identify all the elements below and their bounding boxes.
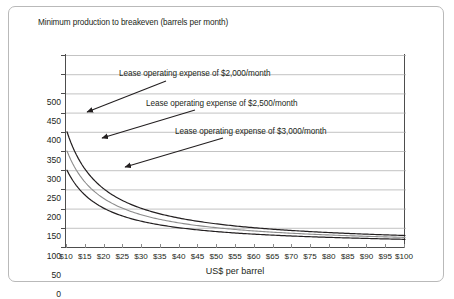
x-tick-mark [404, 244, 405, 248]
y-tick-mark [61, 209, 65, 210]
annotation-loe-2500: Lease operating expense of $2,500/month [146, 99, 297, 108]
x-tick-mark [254, 244, 255, 248]
y-tick-label: 300 [29, 174, 61, 184]
y-tick-label: 150 [29, 231, 61, 241]
y-tick-mark [61, 74, 65, 75]
x-tick-mark [66, 244, 67, 248]
chart-frame: Minimum production to breakeven (barrels… [8, 6, 444, 282]
y-tick-mark [61, 55, 65, 56]
plot-canvas [65, 54, 405, 248]
x-tick-mark [385, 244, 386, 248]
x-tick-mark [273, 244, 274, 248]
x-tick-mark [310, 244, 311, 248]
y-tick-label: 50 [29, 270, 61, 280]
x-tick-mark [160, 244, 161, 248]
y-tick-label: 500 [29, 97, 61, 107]
y-tick-mark [61, 189, 65, 190]
y-tick-mark [61, 170, 65, 171]
x-tick-mark [85, 244, 86, 248]
y-tick-label: 200 [29, 212, 61, 222]
y-tick-mark [61, 151, 65, 152]
plot-area [65, 54, 405, 248]
y-tick-mark [61, 247, 65, 248]
annotation-loe-3000: Lease operating expense of $3,000/month [175, 127, 326, 136]
x-tick-mark [235, 244, 236, 248]
y-tick-mark [61, 228, 65, 229]
y-tick-label: 350 [29, 155, 61, 165]
y-tick-label: 250 [29, 193, 61, 203]
y-tick-mark [61, 93, 65, 94]
y-tick-label: 400 [29, 135, 61, 145]
y-axis-labels: 050100150200250300350400450500 [25, 54, 61, 248]
x-tick-mark [104, 244, 105, 248]
y-tick-mark [61, 132, 65, 133]
y-tick-label: 450 [29, 116, 61, 126]
x-tick-mark [179, 244, 180, 248]
x-tick-mark [291, 244, 292, 248]
x-axis-title: US$ per barrel [65, 266, 405, 276]
series-lines [66, 54, 406, 248]
y-axis-title: Minimum production to breakeven (barrels… [38, 18, 258, 29]
x-tick-mark [141, 244, 142, 248]
x-axis-labels: $10$15$20$25$30$35$40$45$50$55$60$65$70$… [65, 248, 405, 264]
y-tick-label: 0 [29, 289, 61, 299]
x-tick-mark [197, 244, 198, 248]
y-tick-mark [61, 113, 65, 114]
annotation-loe-2000: Lease operating expense of $2,000/month [119, 69, 270, 78]
x-tick-mark [122, 244, 123, 248]
x-tick-label: $100 [387, 252, 421, 261]
x-tick-mark [348, 244, 349, 248]
x-tick-mark [216, 244, 217, 248]
x-tick-mark [366, 244, 367, 248]
x-tick-mark [329, 244, 330, 248]
